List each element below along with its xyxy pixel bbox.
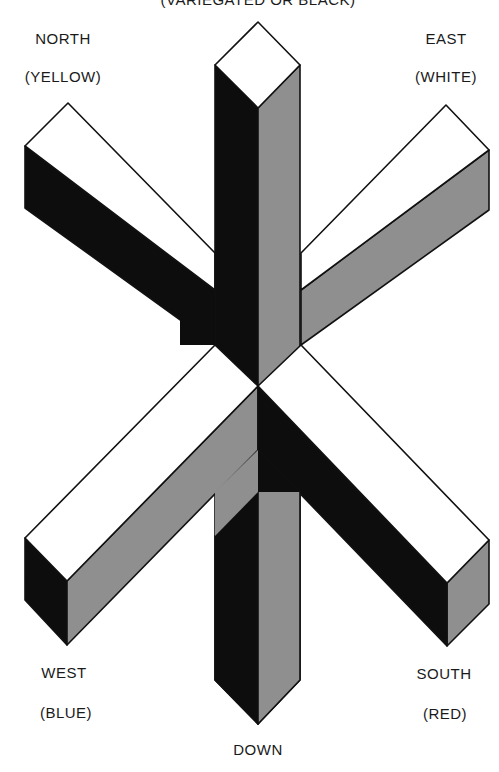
compass-cross-diagram: [0, 0, 499, 772]
east-arm: [301, 105, 489, 345]
